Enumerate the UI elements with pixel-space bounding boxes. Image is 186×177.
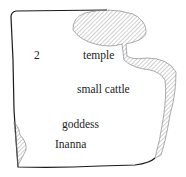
label-inanna: Inanna xyxy=(55,139,86,151)
label-number: 2 xyxy=(34,50,40,62)
label-temple: temple xyxy=(83,50,114,62)
tablet-diagram: 2 temple small cattle goddess Inanna xyxy=(0,0,186,177)
label-small-cattle: small cattle xyxy=(77,84,130,96)
label-goddess: goddess xyxy=(62,119,99,131)
